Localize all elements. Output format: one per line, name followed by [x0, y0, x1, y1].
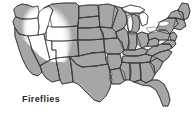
state-alabama	[130, 63, 141, 82]
map-caption-label: Fireflies	[22, 94, 60, 105]
state-nebraska	[78, 27, 104, 40]
fireflies-distribution-figure: Fireflies	[0, 0, 193, 122]
